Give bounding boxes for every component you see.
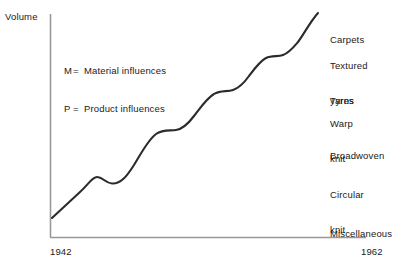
category-line: Textured bbox=[330, 60, 368, 72]
category-line: Circular bbox=[330, 189, 364, 201]
category-line: Broadwoven bbox=[330, 150, 384, 162]
legend-key-m: M bbox=[64, 65, 73, 78]
category-line: Miscellaneous bbox=[330, 228, 392, 240]
legend-equals-m: = bbox=[73, 65, 84, 78]
legend-text-product: Product influences bbox=[84, 103, 165, 114]
legend-row-material: M=Material influences bbox=[64, 65, 166, 78]
legend-row-product: P=Product influences bbox=[64, 103, 166, 116]
legend-annotation-box: M=Material influences P=Product influenc… bbox=[64, 40, 166, 140]
legend-key-p: P bbox=[64, 103, 73, 116]
legend-text-material: Material influences bbox=[84, 65, 166, 76]
legend-equals-p: = bbox=[73, 103, 84, 116]
chart-figure: Volume M=Material influences P=Product i… bbox=[0, 0, 401, 269]
category-label-miscellaneous: Miscellaneous bbox=[330, 205, 392, 263]
x-axis-tick-start: 1942 bbox=[50, 246, 72, 258]
y-axis-title: Volume bbox=[5, 11, 38, 23]
